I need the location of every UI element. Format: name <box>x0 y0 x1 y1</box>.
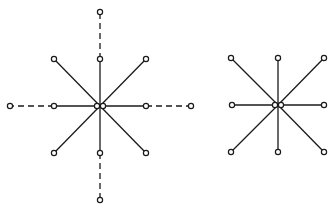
graph-node <box>229 102 234 107</box>
spoke-edge <box>278 58 324 105</box>
center-node <box>100 103 105 108</box>
graph-node <box>143 56 148 61</box>
diagram-canvas <box>0 0 332 209</box>
outer-node <box>97 9 102 14</box>
outer-node <box>7 103 12 108</box>
center-node <box>272 102 277 107</box>
graph-node <box>51 56 56 61</box>
graph-node <box>51 103 56 108</box>
center-node <box>94 103 99 108</box>
outer-node <box>97 197 102 202</box>
graph-node <box>228 149 233 154</box>
graph-node <box>51 150 56 155</box>
spoke-edge <box>231 105 278 152</box>
spoke-edge <box>100 59 146 106</box>
center-node <box>278 102 283 107</box>
graph-node <box>275 149 280 154</box>
graph-node <box>97 56 102 61</box>
spoke-edge <box>54 106 100 153</box>
graph-node <box>97 150 102 155</box>
graph-node <box>275 55 280 60</box>
spoke-edge <box>100 106 146 153</box>
right-star-graph <box>228 55 326 154</box>
graph-node <box>321 102 326 107</box>
outer-node <box>188 103 193 108</box>
graph-node <box>228 55 233 60</box>
graph-node <box>143 103 148 108</box>
spoke-edge <box>278 105 324 152</box>
graph-node <box>143 150 148 155</box>
left-star-graph <box>7 9 193 202</box>
spoke-edge <box>54 59 100 106</box>
spoke-edge <box>231 58 278 105</box>
graph-node <box>321 55 326 60</box>
graph-node <box>321 149 326 154</box>
